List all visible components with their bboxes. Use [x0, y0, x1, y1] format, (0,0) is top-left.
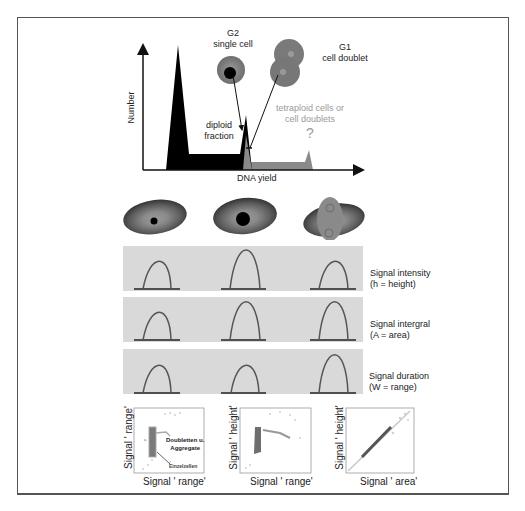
signal-duration-label: Signal duration (W = range): [369, 371, 429, 393]
tetraploid-label: tetraploid cells or cell doublets ?: [270, 103, 350, 141]
signal-duration-panel: [123, 349, 363, 394]
scatter-plot-height-range: [240, 408, 311, 473]
scatter-2-y-label: Signal ' height': [228, 403, 239, 473]
y-axis-label: Number: [126, 88, 137, 128]
cell-g1-single-icon: [121, 196, 189, 239]
tetraploid-region: [242, 150, 313, 170]
scatter-1-tick-max: 1023: [126, 410, 133, 414]
signal-integral-label: Signal intergral (A = area): [370, 319, 430, 341]
g1-title: G1 cell doublet: [315, 42, 375, 64]
g1-cell-doublet-icon: [270, 39, 304, 87]
scatter-plot-height-area: [346, 408, 414, 473]
cell-doublet-icon: [301, 197, 368, 240]
scatter-1-annotation-doublets: Doubletten u. Aggregate: [166, 436, 204, 452]
scatter-1-annotation-singles: Einzelzellen: [169, 463, 197, 470]
g2-title: G2 single cell: [208, 28, 258, 50]
signal-intensity-label: Signal intensity (h = height): [370, 268, 431, 290]
scatter-3-y-label: Signal ' height': [334, 403, 345, 473]
signal-integral-panel: [123, 297, 363, 342]
signal-panels: [0, 240, 525, 400]
x-axis-label: DNA yield: [237, 173, 277, 184]
cell-g2-single-icon: [211, 195, 278, 237]
dna-histogram: [0, 0, 525, 200]
diploid-fraction-label: diploid fraction: [199, 120, 239, 142]
scatter-3-x-label: Signal ' area': [360, 476, 417, 487]
scatter-2-x-label: Signal ' range': [250, 476, 313, 487]
signal-intensity-panel: [123, 246, 363, 291]
cell-shapes-row: [0, 190, 525, 240]
g2-single-cell-icon: [217, 56, 245, 84]
scatter-1-x-label: Signal ' range': [143, 476, 206, 487]
